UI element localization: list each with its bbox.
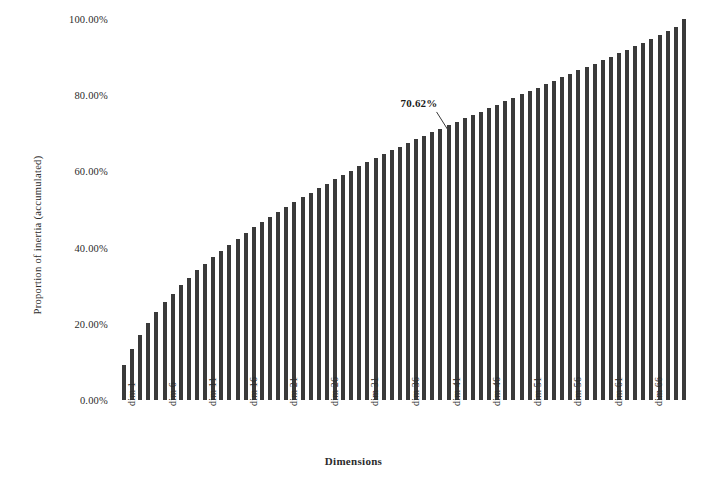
annotation-label-70-62: 70.62% xyxy=(401,97,438,109)
x-axis-tick-label: dim 21 xyxy=(288,377,299,406)
x-axis-tick-label: dim 66 xyxy=(653,377,664,406)
x-axis-tick-label: dim 16 xyxy=(248,377,259,406)
x-axis-title: Dimensions xyxy=(0,455,707,467)
x-axis-tick-label: dim 36 xyxy=(410,377,421,406)
x-axis-tick-label: dim 31 xyxy=(369,377,380,406)
x-axis-tick-label: dim 51 xyxy=(532,377,543,406)
x-axis-tick-label: dim 11 xyxy=(207,377,218,406)
x-axis-tick-label: dim 6 xyxy=(167,382,178,406)
x-axis-tick-label: dim 61 xyxy=(613,377,624,406)
x-axis-tick-label: dim 41 xyxy=(451,377,462,406)
x-axis-tick-label: dim 26 xyxy=(329,377,340,406)
x-axis-tick-label: dim 46 xyxy=(491,377,502,406)
x-axis-tick-labels: dim 1dim 6dim 11dim 16dim 21dim 26dim 31… xyxy=(0,0,707,486)
x-axis-tick-label: dim 56 xyxy=(572,377,583,406)
chart-page: 0.00%20.00%40.00%60.00%80.00%100.00% Pro… xyxy=(0,0,707,486)
x-axis-tick-label: dim 1 xyxy=(126,382,137,406)
